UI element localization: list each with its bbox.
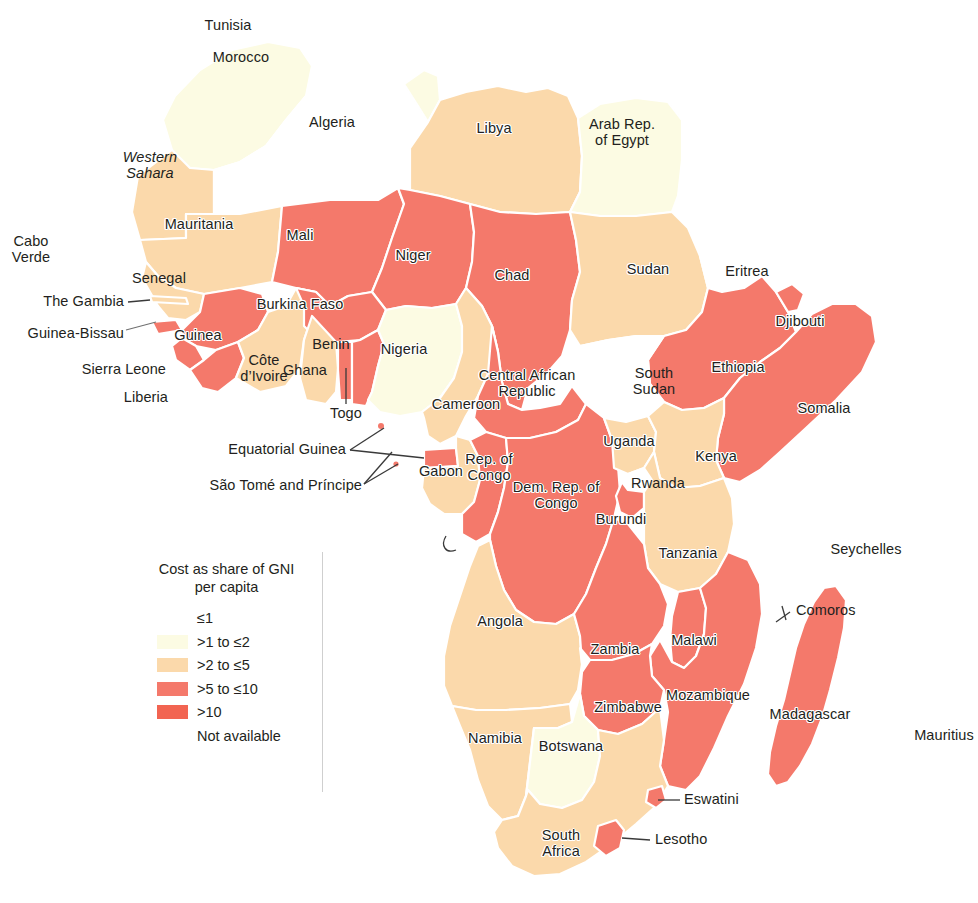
legend-label-5-10: >5 to ≤10 [197, 681, 258, 697]
label-chad: Chad [494, 268, 529, 284]
country-lesotho[interactable] [594, 820, 624, 856]
label-sudan: Sudan [627, 262, 669, 278]
label-burkina-faso: Burkina Faso [257, 297, 344, 313]
label-malawi: Malawi [671, 633, 717, 649]
label-zambia: Zambia [591, 642, 640, 658]
label-uganda: Uganda [603, 434, 654, 450]
country-the-gambia[interactable] [150, 296, 188, 304]
label-algeria: Algeria [309, 115, 355, 131]
label-dem-rep-congo: Dem. Rep. of Congo [513, 480, 600, 511]
label-rwanda: Rwanda [631, 476, 685, 492]
label-eritrea: Eritrea [725, 264, 768, 280]
label-sierra-leone: Sierra Leone [82, 362, 166, 378]
label-somalia: Somalia [797, 401, 850, 417]
label-gabon: Gabon [419, 464, 463, 480]
label-mauritius: Mauritius [914, 728, 974, 744]
legend-label-not-available: Not available [197, 728, 281, 744]
label-equatorial-guinea: Equatorial Guinea [228, 442, 346, 458]
leader-line-congo-coast [444, 536, 456, 551]
legend-label-le1: ≤1 [197, 610, 213, 626]
legend-label-2-5: >2 to ≤5 [197, 657, 250, 673]
legend-title: Cost as share of GNI per capita [137, 552, 322, 596]
legend-title-line1: Cost as share of GNI [159, 561, 294, 577]
leader-line-comoros [776, 612, 790, 622]
label-angola: Angola [477, 614, 523, 630]
label-kenya: Kenya [695, 449, 737, 465]
label-senegal: Senegal [132, 271, 186, 287]
legend-swatch-1-2 [157, 635, 188, 649]
legend-items: ≤1 >1 to ≤2 >2 to ≤5 >5 to ≤10 >10 Not a… [137, 606, 322, 747]
legend-label-gt10: >10 [197, 704, 222, 720]
legend-item-not-available[interactable]: Not available [137, 724, 322, 748]
label-mozambique: Mozambique [666, 688, 750, 704]
label-the-gambia: The Gambia [43, 294, 124, 310]
legend-swatch-not-available [157, 729, 188, 743]
legend-title-line2: per capita [195, 579, 259, 595]
leader-line-guinea-bissau [126, 322, 156, 330]
map-figure: Tunisia Morocco Algeria Libya Arab Rep. … [0, 0, 978, 903]
country-eswatini[interactable] [646, 786, 666, 808]
leader-line-equatorial-guinea-b [350, 428, 384, 450]
label-south-sudan: South Sudan [633, 366, 675, 397]
label-ethiopia: Ethiopia [711, 360, 764, 376]
legend-swatch-le1 [157, 611, 188, 625]
label-eswatini: Eswatini [684, 792, 739, 808]
label-cote-divoire: Côte d’Ivoire [240, 353, 288, 384]
label-djibouti: Djibouti [775, 314, 824, 330]
legend-swatch-gt10 [157, 705, 188, 719]
label-liberia: Liberia [124, 390, 168, 406]
label-mali: Mali [287, 228, 314, 244]
legend-item-2-5[interactable]: >2 to ≤5 [137, 653, 322, 677]
legend: Cost as share of GNI per capita ≤1 >1 to… [137, 552, 323, 792]
label-sao-tome-and-principe: São Tomé and Príncipe [209, 478, 362, 494]
label-seychelles: Seychelles [830, 542, 901, 558]
label-western-sahara: Western Sahara [123, 150, 177, 181]
label-togo: Togo [330, 406, 362, 422]
label-namibia: Namibia [468, 731, 522, 747]
label-tanzania: Tanzania [659, 546, 718, 562]
leader-line-sao-tome-a [364, 464, 398, 484]
legend-item-1-2[interactable]: >1 to ≤2 [137, 630, 322, 654]
label-central-african-republic: Central African Republic [479, 368, 576, 399]
legend-item-le1[interactable]: ≤1 [137, 606, 322, 630]
label-madagascar: Madagascar [770, 707, 851, 723]
label-lesotho: Lesotho [655, 832, 707, 848]
label-burundi: Burundi [596, 512, 647, 528]
label-nigeria: Nigeria [381, 342, 428, 358]
label-egypt: Arab Rep. of Egypt [589, 117, 655, 148]
label-guinea: Guinea [174, 328, 221, 344]
label-cabo-verde: Cabo Verde [12, 234, 50, 265]
legend-swatch-2-5 [157, 658, 188, 672]
label-comoros: Comoros [796, 603, 856, 619]
label-south-africa: South Africa [542, 828, 580, 859]
legend-swatch-5-10 [157, 682, 188, 696]
leader-line-sao-tome-b [364, 452, 392, 484]
leader-line-lesotho [622, 838, 650, 840]
country-sudan[interactable] [570, 212, 708, 346]
legend-item-5-10[interactable]: >5 to ≤10 [137, 677, 322, 701]
leader-line-the-gambia [128, 300, 150, 302]
label-libya: Libya [476, 121, 511, 137]
label-tunisia: Tunisia [205, 18, 252, 34]
label-botswana: Botswana [539, 739, 603, 755]
legend-item-gt10[interactable]: >10 [137, 700, 322, 724]
label-mauritania: Mauritania [165, 217, 234, 233]
label-guinea-bissau: Guinea-Bissau [28, 326, 124, 342]
label-niger: Niger [395, 248, 430, 264]
legend-label-1-2: >1 to ≤2 [197, 634, 250, 650]
label-rep-congo: Rep. of Congo [465, 452, 512, 483]
label-zimbabwe: Zimbabwe [594, 700, 662, 716]
label-morocco: Morocco [213, 50, 269, 66]
label-ghana: Ghana [283, 363, 327, 379]
label-benin: Benin [312, 337, 350, 353]
